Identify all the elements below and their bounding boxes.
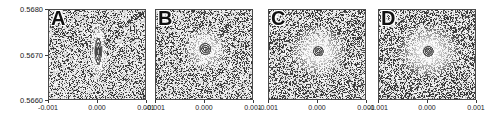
x-tick-label: -0.001 (38, 104, 58, 111)
panel-b: B (155, 9, 253, 100)
panel-letter-d: D (381, 9, 395, 28)
y-tick-mark (45, 55, 48, 56)
y-tick-label: 0.5670 (20, 50, 43, 59)
x-tick-label: -0.001 (258, 104, 278, 111)
x-tick-label: 0.000 (418, 104, 436, 111)
figure-panel-row: A-0.0010.0000.001B-0.0010.0000.001C-0.00… (0, 0, 490, 121)
x-tick-mark (97, 100, 98, 103)
x-tick-mark (204, 100, 205, 103)
x-tick-mark (268, 100, 269, 103)
x-tick-mark (427, 100, 428, 103)
panel-c: C (268, 9, 366, 100)
y-tick-label: 0.5660 (20, 96, 43, 105)
x-tick-mark (48, 100, 49, 103)
y-tick-mark (45, 100, 48, 101)
x-tick-label: 0.000 (308, 104, 326, 111)
x-tick-label: 0.000 (195, 104, 213, 111)
x-tick-label: -0.001 (368, 104, 388, 111)
x-tick-mark (317, 100, 318, 103)
x-tick-mark (476, 100, 477, 103)
panel-d: D (378, 9, 476, 100)
x-tick-label: 0.000 (88, 104, 106, 111)
panel-letter-c: C (271, 9, 285, 28)
x-tick-label: -0.001 (145, 104, 165, 111)
x-tick-mark (366, 100, 367, 103)
x-tick-mark (146, 100, 147, 103)
x-tick-mark (253, 100, 254, 103)
y-tick-mark (45, 9, 48, 10)
x-tick-mark (155, 100, 156, 103)
panel-letter-a: A (51, 9, 65, 28)
panel-letter-b: B (158, 9, 172, 28)
x-tick-label: 0.001 (467, 104, 485, 111)
x-tick-mark (378, 100, 379, 103)
y-tick-label: 0.5680 (20, 5, 43, 14)
panel-a: A (48, 9, 146, 100)
